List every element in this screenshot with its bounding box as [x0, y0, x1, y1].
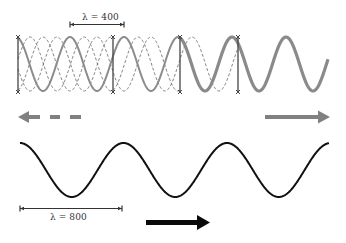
- segment-bar: [16, 35, 20, 94]
- segment-bar: [111, 35, 115, 94]
- right-gray-arrow: [265, 111, 330, 124]
- top-wavelength-label: λ = 400: [82, 12, 119, 22]
- bottom-wavelength-dimension: [20, 206, 122, 212]
- right-black-arrow: [146, 215, 210, 230]
- gray-solid-wave-right-section: [180, 37, 328, 91]
- dashed-waves: [18, 37, 238, 91]
- dashed-wave: [18, 37, 113, 91]
- bottom-wavelength-label: λ = 800: [50, 212, 87, 222]
- top-wavelength-dimension: [70, 22, 124, 28]
- left-dashed-arrow: [18, 111, 81, 123]
- wave-diagram: [0, 0, 346, 243]
- black-long-wave: [20, 143, 329, 197]
- dashed-wave: [18, 37, 180, 91]
- dashed-wave: [18, 37, 238, 91]
- gray-solid-wave: [18, 37, 180, 91]
